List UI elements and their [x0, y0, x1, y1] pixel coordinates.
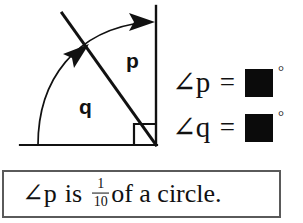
answer-box-p[interactable] [245, 69, 273, 97]
statement-verb: is [65, 181, 82, 207]
fraction-numerator: 1 [96, 177, 105, 192]
statement-prefix: ∠p [22, 181, 57, 207]
equation-row-p: ∠p = ° [172, 60, 303, 105]
equation-row-q: ∠q = ° [172, 105, 303, 150]
arc-arrowhead-mid [63, 44, 89, 68]
equation-label-p: ∠p [172, 68, 210, 97]
statement-box: ∠p is 1 10 of a circle. [2, 170, 281, 218]
fraction-denominator: 10 [93, 195, 109, 210]
angle-arc [38, 22, 146, 145]
diagonal-ray [62, 13, 156, 145]
fraction-one-tenth: 1 10 [92, 177, 109, 210]
worksheet-problem: p q ∠p = ° ∠q = ° ∠p is 1 [0, 0, 303, 223]
answer-box-q[interactable] [245, 114, 273, 142]
equals-sign-p: = [220, 69, 235, 96]
arc-arrowhead-top [129, 13, 155, 31]
angle-label-q: q [79, 96, 92, 117]
angle-label-p: p [126, 50, 139, 71]
equation-list: ∠p = ° ∠q = ° [172, 60, 303, 150]
equals-sign-q: = [220, 114, 235, 141]
degree-symbol-q: ° [278, 109, 284, 124]
statement-suffix: of a circle. [111, 181, 221, 207]
answer-wrap-q: ° [245, 114, 273, 142]
equation-label-q: ∠q [172, 113, 210, 142]
answer-wrap-p: ° [245, 69, 273, 97]
angle-diagram [0, 0, 175, 160]
degree-symbol-p: ° [278, 64, 284, 79]
statement-text: ∠p is 1 10 of a circle. [22, 178, 222, 211]
